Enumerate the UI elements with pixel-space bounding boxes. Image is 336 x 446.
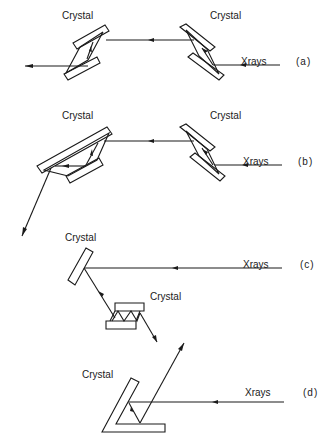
crystal-a-left — [64, 25, 109, 80]
panel-tag-d: (d) — [303, 388, 318, 398]
panel-b — [22, 124, 282, 236]
crystal-label-a-left: Crystal — [62, 11, 93, 21]
xrays-label-d: Xrays — [245, 388, 271, 398]
crystal-label-b-right: Crystal — [210, 111, 241, 121]
diagram-drawing — [0, 0, 336, 446]
xrays-label-a: Xrays — [241, 57, 267, 67]
panel-tag-c: (c) — [300, 260, 315, 270]
xrays-label-b: Xrays — [243, 157, 269, 167]
crystal-b-right — [180, 124, 225, 181]
crystal-d-l-shaped — [102, 378, 165, 432]
crystal-label-a-right: Crystal — [210, 11, 241, 21]
panel-tag-b: (b) — [298, 157, 313, 167]
crystal-label-b-left: Crystal — [62, 111, 93, 121]
crystal-c-flat — [68, 248, 93, 285]
crystal-a-right — [180, 24, 224, 80]
crystal-label-d: Crystal — [82, 370, 113, 380]
panel-tag-a: (a) — [296, 57, 311, 67]
crystal-label-c-channel: Crystal — [150, 292, 181, 302]
xrays-label-c: Xrays — [243, 260, 269, 270]
crystal-c-channel-cut — [106, 303, 144, 329]
xray-crystal-diagram: Crystal Crystal Xrays (a) Crystal Crysta… — [0, 0, 336, 446]
crystal-label-c-flat: Crystal — [65, 233, 96, 243]
panel-a — [25, 24, 280, 80]
